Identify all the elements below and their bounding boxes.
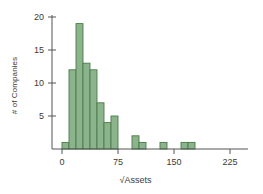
histogram-chart: # of Companies 5101520 075150225 √Assets [0, 0, 263, 194]
x-axis-ticks: 075150225 [59, 149, 237, 167]
histogram-bar [90, 70, 97, 149]
histogram-bar [132, 136, 139, 149]
histogram-bar [76, 24, 83, 149]
x-tick-label: 150 [166, 157, 181, 167]
y-tick-label: 15 [34, 45, 44, 55]
x-tick-label: 225 [222, 157, 237, 167]
histogram-bar [181, 142, 188, 149]
x-tick-label: 75 [113, 157, 123, 167]
y-tick-label: 20 [34, 12, 44, 22]
y-tick-label: 10 [34, 78, 44, 88]
histogram-bar [69, 70, 76, 149]
histogram-bar [97, 103, 104, 149]
y-tick-label: 5 [39, 111, 44, 121]
histogram-bar [62, 142, 69, 149]
plot-area: 5101520 075150225 [0, 0, 263, 194]
histogram-bar [83, 63, 90, 149]
x-axis-title-label: √Assets [112, 175, 152, 185]
histogram-bar [160, 142, 167, 149]
histogram-bar [139, 142, 146, 149]
y-axis-ticks: 5101520 [34, 12, 56, 121]
histogram-bar [111, 116, 118, 149]
bars-group [62, 24, 195, 149]
histogram-bar [104, 123, 111, 149]
x-axis-title: √Assets [0, 175, 263, 185]
histogram-bar [188, 142, 195, 149]
x-tick-label: 0 [59, 157, 64, 167]
